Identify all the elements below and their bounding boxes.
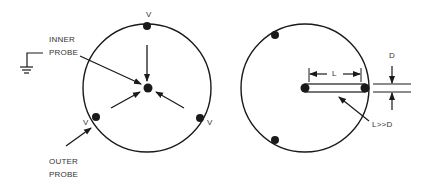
right-panel (241, 24, 411, 152)
voltage-label-left: V (83, 119, 89, 127)
arrow-right-to-center (156, 92, 184, 108)
outer-probe-dot-right (196, 114, 204, 122)
probe-dot-upper-left (271, 31, 279, 39)
arrow-ratio-label (339, 97, 369, 121)
voltage-label-right: V (207, 119, 213, 127)
arrow-left-to-center (111, 92, 140, 108)
rod-probe (305, 84, 365, 92)
ground-icon (20, 53, 43, 73)
inner-probe-dot (144, 84, 153, 93)
rod-end-inner (301, 84, 310, 93)
voltage-label-top: V (146, 11, 152, 19)
diameter-dimension (373, 66, 411, 110)
arrow-outer-probe-label (66, 128, 91, 146)
outer-probe-label-line2: PROBE (49, 171, 78, 179)
ratio-label: L>>D (372, 121, 392, 129)
arrow-inner-probe-label (80, 56, 141, 84)
probe-dot-lower-left (271, 136, 279, 144)
rod-end-outer (361, 84, 370, 93)
length-label: L (332, 70, 337, 78)
outer-probe-label-line1: OUTER (49, 158, 78, 166)
inner-probe-label-line2: PROBE (49, 49, 78, 57)
diameter-label: D (389, 52, 395, 60)
inner-probe-label-line1: INNER (49, 36, 75, 44)
outer-probe-dot-left (92, 113, 100, 121)
outer-probe-dot-top (143, 22, 151, 30)
